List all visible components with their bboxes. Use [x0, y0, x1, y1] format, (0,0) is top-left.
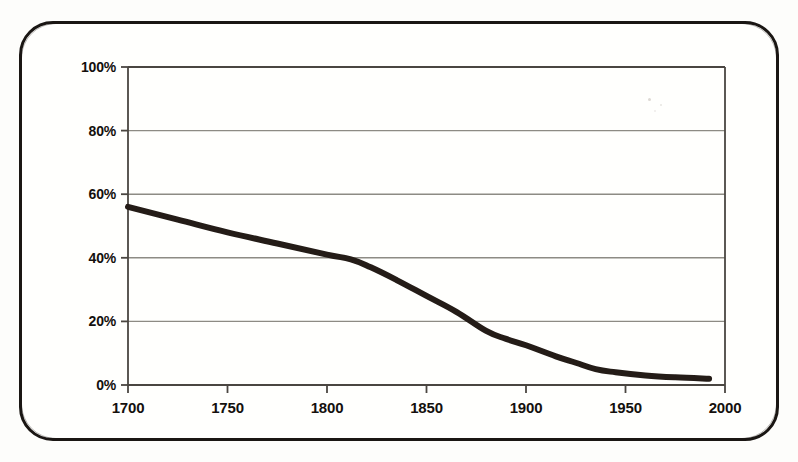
x-tick-label-1950: 1950: [609, 399, 642, 416]
chart-plot-area: [0, 0, 798, 462]
data-series-group: [128, 207, 709, 379]
x-tick-label-2000: 2000: [709, 399, 742, 416]
x-tick-label-1800: 1800: [311, 399, 344, 416]
data-line-share: [128, 207, 709, 379]
y-tick-label-100: 100%: [0, 59, 116, 75]
x-tick-label-1700: 1700: [112, 399, 145, 416]
y-tick-label-80: 80%: [0, 123, 116, 139]
x-tick-label-1900: 1900: [510, 399, 543, 416]
figure-root: 0%20%40%60%80%100% 170017501800185019001…: [0, 0, 798, 462]
x-tick-marks-group: [128, 385, 725, 393]
gridlines-group: [128, 67, 725, 385]
y-tick-label-0: 0%: [0, 377, 116, 393]
x-tick-label-1850: 1850: [410, 399, 443, 416]
y-tick-marks-group: [121, 67, 128, 385]
axis-lines-group: [128, 67, 725, 385]
y-tick-label-60: 60%: [0, 186, 116, 202]
y-tick-label-20: 20%: [0, 313, 116, 329]
x-tick-label-1750: 1750: [211, 399, 244, 416]
y-tick-label-40: 40%: [0, 250, 116, 266]
